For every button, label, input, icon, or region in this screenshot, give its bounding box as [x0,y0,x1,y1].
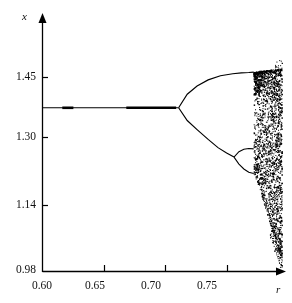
x-tick-label-060: 0.60 [22,279,62,291]
y-tick-label-098: 0.98 [0,263,36,275]
y-tick-label-130: 1.30 [0,130,36,142]
y-tick-label-114: 1.14 [0,198,36,210]
x-axis-label: r [276,283,280,295]
x-tick-label-075: 0.75 [187,279,227,291]
y-tick-label-145: 1.45 [0,70,36,82]
bifurcation-diagram-figure: x r 1.45 1.30 1.14 0.98 0.60 0.65 0.70 0… [0,0,292,303]
x-tick-label-070: 0.70 [131,279,171,291]
x-tick-label-065: 0.65 [75,279,115,291]
y-axis-label: x [22,10,27,22]
orbit-diagram-canvas [0,0,292,303]
